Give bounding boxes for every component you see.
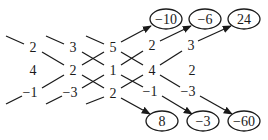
repeated-cell: 2 bbox=[189, 63, 196, 78]
matrix-cell: −1 bbox=[23, 85, 38, 100]
bottom-result: 8 bbox=[159, 114, 166, 129]
repeated-cell: 4 bbox=[149, 63, 156, 78]
top-result: −6 bbox=[198, 12, 213, 27]
matrix-cell: 2 bbox=[30, 40, 37, 55]
repeated-cell: −3 bbox=[181, 84, 196, 99]
matrix-cell: 1 bbox=[110, 63, 117, 78]
sarrus-diagram: 2 3 5 4 2 1 −1 −3 2 2 3 4 2 −1 −3 −10 −6… bbox=[0, 0, 268, 140]
matrix-cell: 4 bbox=[30, 63, 37, 78]
bottom-result: −3 bbox=[196, 114, 211, 129]
top-result: −10 bbox=[155, 12, 177, 27]
repeated-cell: −1 bbox=[143, 84, 158, 99]
top-results: −10 −6 24 bbox=[150, 9, 260, 29]
repeated-cell: 3 bbox=[188, 38, 195, 53]
down-diagonals bbox=[6, 36, 232, 114]
matrix-cell: 2 bbox=[70, 63, 77, 78]
up-diagonals bbox=[6, 26, 231, 104]
repeated-columns: 2 3 4 2 −1 −3 bbox=[143, 38, 196, 99]
bottom-results: 8 −3 −60 bbox=[146, 111, 260, 131]
matrix-cell: −3 bbox=[63, 85, 78, 100]
matrix: 2 3 5 4 2 1 −1 −3 2 bbox=[23, 40, 117, 101]
top-result: 24 bbox=[237, 12, 251, 27]
matrix-cell: 3 bbox=[70, 40, 77, 55]
bottom-result: −60 bbox=[233, 114, 255, 129]
diagonal-line bbox=[6, 36, 24, 44]
matrix-cell: 2 bbox=[110, 86, 117, 101]
repeated-cell: 2 bbox=[149, 38, 156, 53]
matrix-cell: 5 bbox=[110, 40, 117, 55]
